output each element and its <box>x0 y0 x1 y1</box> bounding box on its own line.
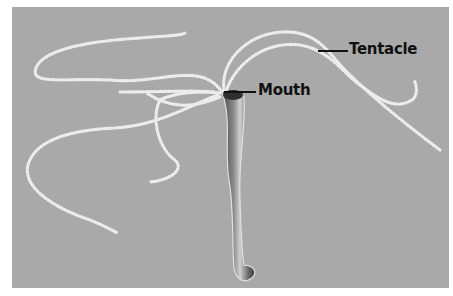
hydra-figure: Tentacle Mouth <box>0 0 453 296</box>
tentacle-leader-line <box>318 50 348 52</box>
mouth-leader-line <box>224 91 256 93</box>
tentacle-label: Tentacle <box>349 40 417 58</box>
mouth-label: Mouth <box>258 81 310 99</box>
hydra-body <box>222 91 255 281</box>
